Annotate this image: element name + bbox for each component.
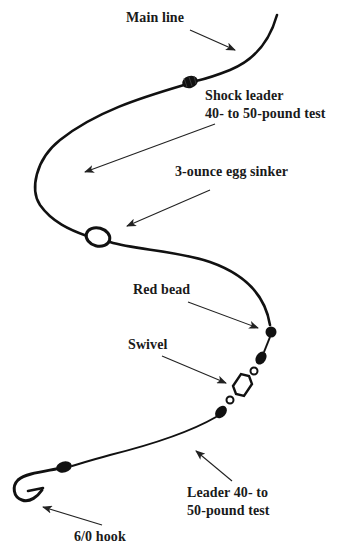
label-leader-spec: 50-pound test xyxy=(187,502,270,519)
label-hook: 6/0 hook xyxy=(74,528,126,545)
hook-icon xyxy=(14,469,56,501)
label-shock-leader: Shock leader xyxy=(205,87,284,104)
swivel-arrow xyxy=(162,356,226,383)
label-main-line: Main line xyxy=(126,9,184,26)
label-shock-leader-spec: 40- to 50-pound test xyxy=(205,105,326,122)
leader-arrow xyxy=(196,451,232,481)
main-line xyxy=(196,15,277,81)
hook-arrow xyxy=(43,507,102,525)
label-egg-sinker: 3-ounce egg sinker xyxy=(175,163,288,180)
label-red-bead: Red bead xyxy=(133,281,190,298)
red-bead-arrow xyxy=(188,302,258,328)
line-knot-icon xyxy=(181,74,200,90)
egg-sinker-icon xyxy=(84,225,112,249)
egg-sinker-arrow xyxy=(127,190,210,226)
fishing-rig-diagram xyxy=(0,0,350,558)
hook-knot-icon xyxy=(55,460,73,475)
leader-line xyxy=(72,417,216,466)
swivel-icon xyxy=(213,349,269,420)
red-bead-icon xyxy=(266,327,277,338)
label-swivel: Swivel xyxy=(128,336,168,353)
shock-leader-line xyxy=(35,85,184,236)
main-line-arrow xyxy=(190,30,235,50)
label-leader: Leader 40- to xyxy=(187,484,268,501)
